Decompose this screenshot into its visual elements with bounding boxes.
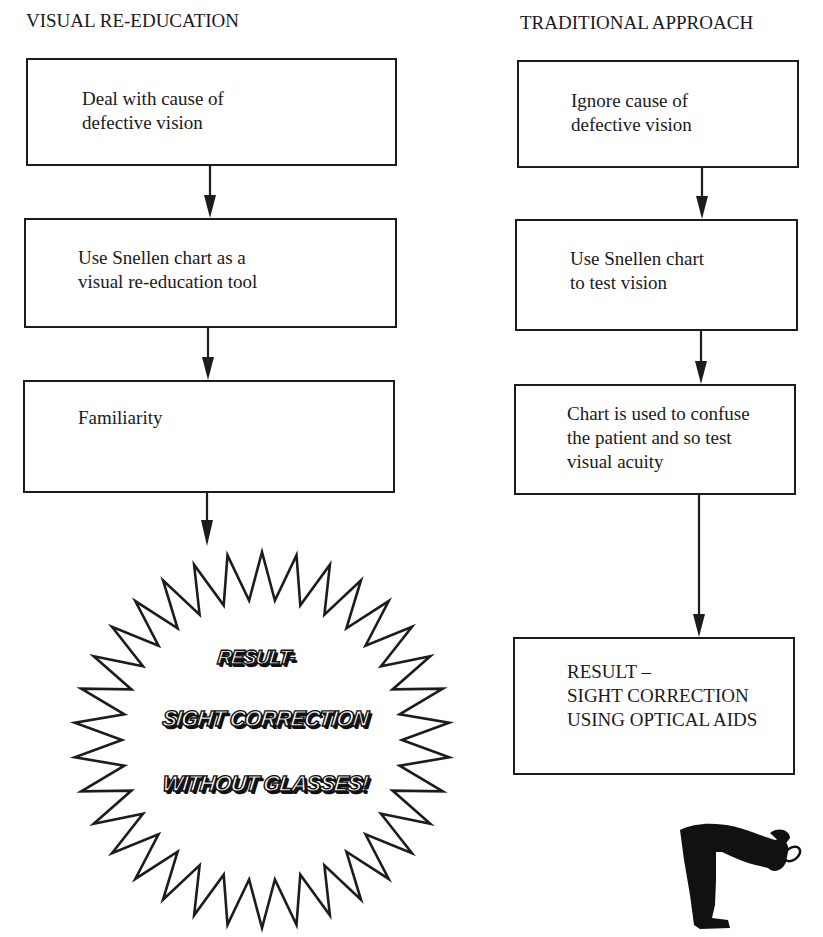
man-with-magnifying-glass-icon xyxy=(680,824,803,929)
arrow-right-2 xyxy=(695,331,707,384)
arrow-left-2 xyxy=(202,328,214,380)
burst-line-sight-correction: SIGHT CORRECTION xyxy=(161,706,369,732)
arrow-right-1 xyxy=(696,168,708,219)
burst-line-result: RESULT- xyxy=(216,646,295,669)
arrow-left-1 xyxy=(204,166,216,218)
diagram-graphics xyxy=(0,0,823,937)
arrow-right-3 xyxy=(693,495,705,637)
result-starburst xyxy=(75,552,449,928)
burst-line-without-glasses: WITHOUT GLASSES! xyxy=(161,771,369,797)
arrows xyxy=(201,166,708,637)
arrow-left-3 xyxy=(201,493,213,546)
